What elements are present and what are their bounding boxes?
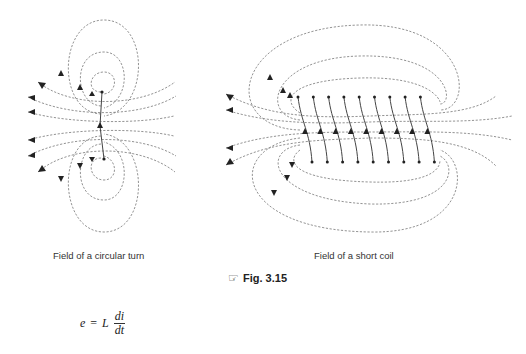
conductor-end-dot <box>102 157 105 160</box>
coil-turn-top-dot <box>388 96 391 99</box>
figure-number: Fig. 3.15 <box>243 272 287 284</box>
field-line <box>68 134 138 232</box>
coil-turn-bottom-dot <box>356 161 359 164</box>
equation-denominator: dt <box>115 324 124 337</box>
coil-turn-top-dot <box>373 96 376 99</box>
arrowhead <box>77 84 83 90</box>
short-coil-diagram <box>226 25 512 232</box>
equation: e = L di dt <box>80 310 125 337</box>
arrowhead <box>28 109 35 115</box>
arrowhead <box>333 128 339 134</box>
equation-equals: = <box>90 316 97 331</box>
arrowhead <box>284 175 290 181</box>
conductor <box>100 126 104 159</box>
arrowhead <box>77 163 83 169</box>
field-line <box>226 138 496 166</box>
arrowhead <box>302 128 308 134</box>
equation-lhs: e <box>80 316 85 331</box>
arrowhead <box>226 107 233 113</box>
coil-turn-top-dot <box>342 96 345 99</box>
arrowhead <box>58 70 64 76</box>
arrowhead <box>409 128 415 134</box>
field-line <box>291 78 440 113</box>
arrowhead <box>28 152 35 158</box>
coil-turn-top-dot <box>297 96 300 99</box>
coil-turn-bottom-dot <box>326 161 329 164</box>
arrowhead <box>226 94 234 101</box>
figure-label: ☞ Fig. 3.15 <box>228 271 287 285</box>
equation-coefficient: L <box>102 316 109 331</box>
field-line <box>252 138 457 232</box>
arrowhead <box>97 122 103 128</box>
arrowhead <box>379 128 385 134</box>
field-line <box>38 82 175 102</box>
arrowhead <box>287 92 293 98</box>
coil-turn-top-dot <box>312 96 315 99</box>
arrowhead <box>226 158 234 165</box>
equation-numerator: di <box>114 310 125 324</box>
arrowhead <box>226 145 233 151</box>
caption-short-coil: Field of a short coil <box>314 250 394 261</box>
coil-turn-top-dot <box>358 96 361 99</box>
coil-turn-top-dot <box>404 96 407 99</box>
caption-circular-turn: Field of a circular turn <box>53 250 144 261</box>
coil-turn-bottom-dot <box>433 161 436 164</box>
circular-turn-diagram <box>28 20 176 232</box>
arrowhead <box>28 137 35 143</box>
conductor-end-dot <box>100 90 103 93</box>
arrowhead <box>424 128 430 134</box>
coil-turn-top-dot <box>327 96 330 99</box>
coil-turn-bottom-dot <box>402 161 405 164</box>
arrowhead <box>38 82 46 89</box>
arrowhead <box>38 165 46 172</box>
field-line <box>226 132 512 148</box>
coil-turn-bottom-dot <box>311 161 314 164</box>
field-line <box>226 110 512 123</box>
coil-turn-top-dot <box>419 96 422 99</box>
arrowhead <box>267 74 273 80</box>
field-line <box>38 151 175 172</box>
field-line <box>80 52 124 108</box>
arrowhead <box>394 128 400 134</box>
coil-turn-bottom-dot <box>418 161 421 164</box>
field-line <box>278 145 449 204</box>
equation-fraction: di dt <box>114 310 125 337</box>
arrowhead <box>271 190 277 196</box>
arrowhead <box>89 91 95 96</box>
conductor <box>100 92 102 126</box>
arrowhead <box>348 128 354 134</box>
coil-turn-bottom-dot <box>341 161 344 164</box>
coil-turn-bottom-dot <box>387 161 390 164</box>
pointing-hand-icon: ☞ <box>228 271 239 285</box>
arrowhead <box>363 128 369 134</box>
arrowhead <box>58 176 64 182</box>
arrowhead <box>289 162 295 168</box>
field-diagram <box>0 0 526 354</box>
arrowhead <box>89 157 95 162</box>
arrowhead <box>317 128 323 134</box>
arrowhead <box>28 95 35 101</box>
coil-turn-bottom-dot <box>372 161 375 164</box>
